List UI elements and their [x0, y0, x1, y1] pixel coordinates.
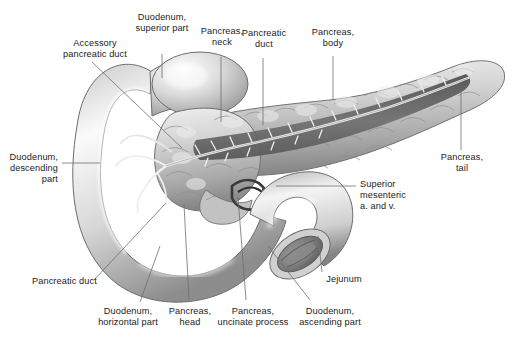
label-jejunum: Jejunum	[326, 274, 361, 285]
label-pancreas-tail: Pancreas, tail	[441, 152, 483, 174]
label-accessory-pancreatic-duct: Accessory pancreatic duct	[63, 38, 127, 60]
anatomy-figure: Duodenum, superior part Accessory pancre…	[0, 0, 512, 349]
label-duodenum-descending-part: Duodenum, descending part	[10, 152, 58, 185]
label-pancreas-neck: Pancreas, neck	[201, 26, 243, 48]
label-pancreas-head: Pancreas, head	[169, 306, 211, 328]
label-pancreatic-duct-left: Pancreatic duct	[32, 276, 97, 287]
label-superior-mesenteric: Superior mesenteric a. and v.	[360, 179, 406, 212]
label-duodenum-superior-part: Duodenum, superior part	[136, 12, 189, 34]
label-pancreatic-duct-top: Pancreatic duct	[242, 28, 286, 50]
label-pancreas-uncinate-process: Pancreas, uncinate process	[217, 306, 288, 328]
label-duodenum-horizontal-part: Duodenum, horizontal part	[98, 306, 158, 328]
label-pancreas-body: Pancreas, body	[312, 27, 354, 49]
duodenum-superior-part-shape	[150, 52, 248, 116]
label-duodenum-ascending-part: Duodenum, ascending part	[299, 306, 361, 328]
